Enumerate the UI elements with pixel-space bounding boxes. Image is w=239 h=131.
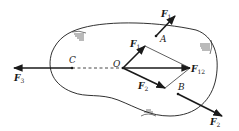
hatch-mark-top-left [72,31,86,40]
label-force-f1-at-a: F1 [160,9,171,20]
label-point-b: B [177,82,185,92]
label-force-f2-at-b: F2 [209,117,220,128]
point-a [155,35,158,38]
force-arrow-f1-at-o [123,46,145,68]
point-b [177,93,180,96]
point-c [71,67,74,70]
label-force-f2-at-o: F2 [137,81,148,92]
label-force-f1-at-o: F1 [129,39,140,50]
label-point-a: A [159,34,167,44]
force-diagram: C O A B F3 F1 F1 F2 F12 F2 [0,0,239,131]
label-point-o: O [113,59,121,69]
hatch-mark-right [200,40,212,54]
label-point-c: C [69,55,76,65]
label-force-f12: F12 [190,64,205,75]
point-o [122,67,125,70]
label-force-f3: F3 [13,73,24,84]
force-arrow-f2-at-b [178,94,222,116]
parallelogram-edge-top [145,46,190,68]
